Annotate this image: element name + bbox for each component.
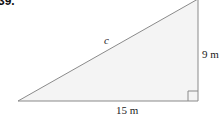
vertical-leg-label: 9 m: [202, 48, 219, 60]
hypotenuse-label: c: [104, 34, 109, 46]
right-triangle-diagram: [0, 0, 221, 132]
horizontal-leg-label: 15 m: [116, 104, 138, 116]
triangle-shape: [18, 0, 198, 101]
